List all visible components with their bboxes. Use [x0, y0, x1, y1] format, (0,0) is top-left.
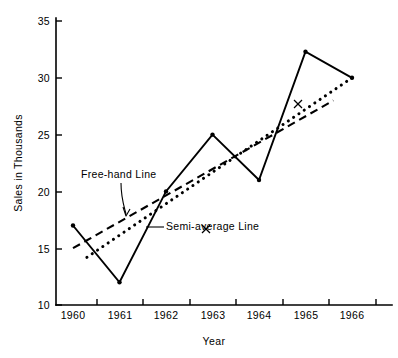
sales-data-points — [71, 50, 354, 285]
x-tick-label: 1963 — [201, 309, 226, 321]
x-tick-label: 1962 — [154, 309, 179, 321]
y-axis-title: Sales in Thousands — [12, 114, 24, 211]
semi-average-midpoint-marker — [202, 100, 302, 233]
y-axis-ticks — [56, 21, 62, 305]
x-tick-label: 1966 — [340, 309, 365, 321]
y-tick-label: 30 — [38, 72, 50, 84]
x-tick-label: 1961 — [108, 309, 133, 321]
x-tick-label: 1960 — [61, 309, 86, 321]
chart-figure: 35 30 25 20 15 10 1960 1961 1962 1963 19… — [0, 0, 398, 358]
annotation-free-hand-label: Free-hand Line — [81, 168, 156, 180]
data-point — [164, 189, 168, 193]
y-axis-tick-labels: 35 30 25 20 15 10 — [38, 15, 50, 311]
y-tick-label: 35 — [38, 15, 50, 27]
x-axis-tick-labels: 1960 1961 1962 1963 1964 1965 1966 — [61, 309, 365, 321]
x-axis-ticks — [97, 299, 376, 305]
y-tick-label: 25 — [38, 129, 50, 141]
data-point — [210, 132, 214, 136]
data-point — [117, 280, 121, 284]
sales-data-line — [73, 52, 352, 283]
data-point — [350, 76, 354, 80]
y-tick-label: 10 — [38, 299, 50, 311]
data-point — [257, 178, 261, 182]
x-tick-label: 1965 — [294, 309, 319, 321]
x-tick-label: 1964 — [247, 309, 272, 321]
y-tick-label: 15 — [38, 243, 50, 255]
annotation-semi-average-label: Semi-average Line — [166, 220, 259, 232]
x-axis-title: Year — [203, 335, 226, 347]
data-point — [71, 223, 75, 227]
chart-svg: 35 30 25 20 15 10 1960 1961 1962 1963 19… — [0, 0, 398, 358]
data-point — [303, 50, 307, 54]
y-tick-label: 20 — [38, 186, 50, 198]
